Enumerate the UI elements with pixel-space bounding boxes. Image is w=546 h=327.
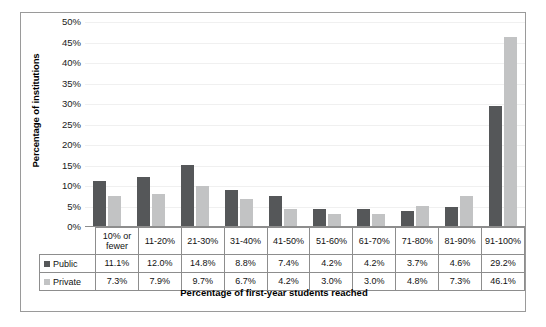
y-axis-tick-50: 50% — [62, 17, 81, 27]
y-axis-tick-15: 15% — [62, 161, 81, 171]
table-cell: 4.2% — [310, 255, 353, 273]
bar-private — [328, 214, 341, 226]
bar-group — [305, 22, 349, 226]
plot-area — [85, 22, 525, 227]
table-column-header: 41-50% — [267, 228, 310, 255]
bar-private — [416, 206, 429, 226]
bar-public — [93, 181, 106, 227]
table-cell: 14.8% — [181, 255, 224, 273]
table-column-header: 91-100% — [482, 228, 525, 255]
bar-private — [460, 196, 473, 226]
data-table: 10% or fewer11-20%21-30%31-40%41-50%51-6… — [39, 227, 525, 291]
table-column-header: 31-40% — [224, 228, 267, 255]
bar-public — [401, 211, 414, 226]
table-header-row: 10% or fewer11-20%21-30%31-40%41-50%51-6… — [40, 228, 525, 255]
legend-swatch-icon — [44, 279, 50, 285]
table-column-header: 11-20% — [138, 228, 181, 255]
bar-public — [445, 207, 458, 226]
bar-private — [504, 37, 517, 226]
table-column-header: 61-70% — [353, 228, 396, 255]
bar-group — [481, 22, 525, 226]
bar-private — [284, 209, 297, 226]
y-axis-tick-40: 40% — [62, 58, 81, 68]
table-cell: 4.2% — [353, 255, 396, 273]
chart-container: Percentage of institutions 50%45%40%35%3… — [20, 12, 526, 312]
y-axis-tick-45: 45% — [62, 38, 81, 48]
bar-public — [225, 190, 238, 226]
legend-label: Private — [53, 277, 81, 287]
table-corner-cell — [40, 228, 96, 255]
bar-private — [152, 194, 165, 226]
table-column-header: 21-30% — [181, 228, 224, 255]
table-column-header: 71-80% — [396, 228, 439, 255]
y-axis-tick-5: 5% — [67, 202, 81, 212]
bar-private — [240, 199, 253, 226]
table-row: Public11.1%12.0%14.8%8.8%7.4%4.2%4.2%3.7… — [40, 255, 525, 273]
table-column-header: 81-90% — [439, 228, 482, 255]
bar-group — [129, 22, 173, 226]
y-axis-title: Percentage of institutions — [30, 31, 41, 191]
x-axis-title: Percentage of first-year students reache… — [21, 287, 527, 298]
bar-group — [85, 22, 129, 226]
bar-public — [181, 165, 194, 226]
bar-group — [261, 22, 305, 226]
bar-group — [349, 22, 393, 226]
table-cell: 7.4% — [267, 255, 310, 273]
bar-public — [269, 196, 282, 226]
data-table-body: 10% or fewer11-20%21-30%31-40%41-50%51-6… — [40, 228, 525, 291]
bar-group — [217, 22, 261, 226]
y-axis-tick-35: 35% — [62, 79, 81, 89]
bar-group — [437, 22, 481, 226]
bar-public — [313, 209, 326, 226]
table-column-header: 51-60% — [310, 228, 353, 255]
bar-group — [393, 22, 437, 226]
y-axis-tick-30: 30% — [62, 99, 81, 109]
plot-region: Percentage of institutions 50%45%40%35%3… — [21, 13, 527, 229]
legend-swatch-icon — [44, 261, 50, 267]
table-cell: 12.0% — [138, 255, 181, 273]
y-axis-tick-10: 10% — [62, 181, 81, 191]
y-axis-tick-25: 25% — [62, 120, 81, 130]
table-cell: 4.6% — [439, 255, 482, 273]
bar-group — [173, 22, 217, 226]
bar-private — [372, 214, 385, 226]
bar-private — [108, 196, 121, 226]
bars-layer — [85, 22, 525, 226]
bar-public — [357, 209, 370, 226]
table-column-header: 10% or fewer — [96, 228, 139, 255]
y-axis-tick-20: 20% — [62, 140, 81, 150]
y-axis-tick-labels: 50%45%40%35%30%25%20%15%10%5%0% — [41, 13, 83, 227]
table-cell: 29.2% — [482, 255, 525, 273]
table-cell: 8.8% — [224, 255, 267, 273]
bar-public — [137, 177, 150, 226]
legend-label: Public — [53, 259, 78, 269]
table-cell: 11.1% — [96, 255, 139, 273]
legend-item-public: Public — [40, 255, 96, 273]
table-cell: 3.7% — [396, 255, 439, 273]
bar-public — [489, 106, 502, 226]
bar-private — [196, 186, 209, 226]
